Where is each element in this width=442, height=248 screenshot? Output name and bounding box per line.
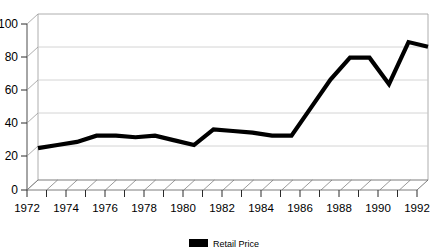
x-tick-label-1972: 1972: [14, 202, 40, 214]
y-tick-label-40: 40: [5, 116, 19, 130]
chart-floor-base: [27, 180, 428, 190]
chart-depth-edges: [27, 14, 38, 190]
x-tick-label-1982: 1982: [209, 202, 235, 214]
y-tick-label-20: 20: [5, 149, 19, 163]
x-tick-label-1980: 1980: [170, 202, 196, 214]
x-tick-label-1984: 1984: [248, 202, 274, 214]
x-tick-label-1976: 1976: [92, 202, 118, 214]
line-chart-plot: 100 80 60 40 20 0: [0, 0, 442, 248]
chart-container: 100 80 60 40 20 0: [0, 0, 442, 248]
legend-swatch-retail-price: [189, 239, 208, 247]
x-tick-label-1992: 1992: [404, 202, 430, 214]
y-tick-label-80: 80: [5, 50, 19, 64]
y-tick-label-100: 100: [0, 17, 18, 31]
x-tick-label-1978: 1978: [131, 202, 157, 214]
x-tick-label-1988: 1988: [326, 202, 352, 214]
chart-legend: Retail Price: [189, 239, 259, 248]
chart-back-wall: [38, 14, 428, 180]
x-tick-label-1986: 1986: [287, 202, 313, 214]
y-tick-label-60: 60: [5, 83, 19, 97]
x-tick-label-1990: 1990: [365, 202, 391, 214]
y-tick-label-0: 0: [11, 183, 18, 197]
y-axis: 100 80 60 40 20 0: [0, 17, 27, 197]
x-axis: 1972 1974 1976 1978 1980 1982 1984 1986 …: [14, 190, 430, 214]
x-tick-label-1974: 1974: [53, 202, 79, 214]
legend-label-retail-price: Retail Price: [213, 239, 259, 248]
